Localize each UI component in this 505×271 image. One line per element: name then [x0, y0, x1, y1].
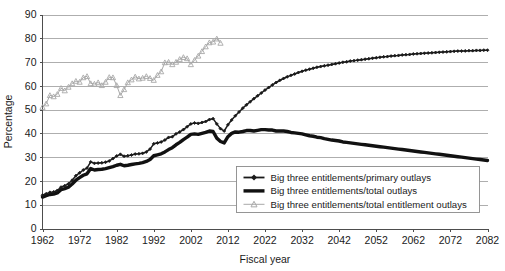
data-point-diamond	[445, 50, 448, 53]
data-point-diamond	[442, 51, 445, 54]
data-point-diamond	[97, 162, 100, 165]
y-tick-label-20: 20	[25, 175, 37, 187]
y-tick-label-70: 70	[25, 56, 37, 68]
x-axis-title: Fiscal year	[240, 253, 291, 265]
legend-label-0: Big three entitlements/primary outlays	[271, 172, 432, 183]
data-point-diamond	[486, 49, 489, 52]
data-point-diamond	[427, 52, 430, 55]
x-tick-label-1992: 1992	[142, 234, 166, 246]
data-point-diamond	[475, 49, 478, 52]
data-point-diamond	[319, 65, 322, 68]
data-point-diamond	[404, 53, 407, 56]
data-point-diamond	[353, 59, 356, 62]
x-tick-label-2052: 2052	[365, 234, 389, 246]
data-point-diamond	[137, 152, 140, 155]
line-chart: 0102030405060708090 19621972198219922002…	[0, 0, 505, 271]
y-tick-label-0: 0	[31, 222, 37, 234]
legend-item-1[interactable]: Big three entitlements/total outlays	[244, 185, 418, 196]
y-tick-label-90: 90	[25, 8, 37, 20]
data-point-diamond	[397, 54, 400, 57]
series-line-total-entitlement-outlays	[43, 39, 221, 107]
x-tick-label-2072: 2072	[439, 234, 463, 246]
data-point-diamond	[382, 55, 385, 58]
legend-label-1: Big three entitlements/total outlays	[271, 185, 418, 196]
data-point-diamond	[330, 63, 333, 66]
data-point-diamond	[419, 52, 422, 55]
y-axis-tick-labels: 0102030405060708090	[25, 8, 37, 234]
data-point-diamond	[471, 49, 474, 52]
data-point-diamond	[156, 141, 159, 144]
data-point-diamond	[134, 153, 137, 156]
legend-item-2[interactable]: Big three entitlements/total entitlement…	[244, 199, 467, 210]
data-point-diamond	[438, 51, 441, 54]
data-point-diamond	[130, 154, 133, 157]
data-point-diamond	[360, 58, 363, 61]
data-point-diamond	[430, 51, 433, 54]
data-point-diamond	[100, 161, 103, 164]
data-point-diamond	[401, 53, 404, 56]
data-point-diamond	[345, 60, 348, 63]
data-point-diamond	[479, 49, 482, 52]
x-tick-label-2002: 2002	[179, 234, 203, 246]
chart-container: 0102030405060708090 19621972198219922002…	[0, 0, 505, 271]
data-point-diamond	[315, 66, 318, 69]
data-point-diamond	[416, 52, 419, 55]
data-point-diamond	[482, 49, 485, 52]
data-point-diamond	[356, 59, 359, 62]
data-point-diamond	[434, 51, 437, 54]
data-point-diamond	[393, 54, 396, 57]
data-point-diamond	[412, 52, 415, 55]
x-tick-label-1982: 1982	[105, 234, 129, 246]
y-tick-label-30: 30	[25, 151, 37, 163]
data-point-diamond	[423, 52, 426, 55]
x-tick-label-2082: 2082	[476, 234, 500, 246]
data-point-diamond	[453, 50, 456, 53]
data-point-diamond	[464, 49, 467, 52]
data-point-diamond	[364, 58, 367, 61]
data-point-diamond	[390, 55, 393, 58]
y-tick-label-80: 80	[25, 32, 37, 44]
data-point-diamond	[371, 57, 374, 60]
data-point-diamond	[312, 67, 315, 70]
legend: Big three entitlements/primary outlaysBi…	[237, 167, 480, 213]
series-total-entitlement-outlays	[40, 36, 223, 109]
y-tick-label-60: 60	[25, 80, 37, 92]
legend-item-0[interactable]: Big three entitlements/primary outlays	[244, 172, 432, 183]
data-point-diamond	[193, 121, 196, 124]
data-point-diamond	[341, 61, 344, 64]
data-point-diamond	[200, 121, 203, 124]
y-axis-title: Percentage	[2, 94, 14, 148]
data-point-diamond	[460, 50, 463, 53]
data-point-diamond	[467, 49, 470, 52]
x-tick-label-2062: 2062	[402, 234, 426, 246]
y-tick-label-10: 10	[25, 198, 37, 210]
data-point-diamond	[327, 64, 330, 67]
data-point-diamond	[449, 50, 452, 53]
x-tick-label-1962: 1962	[31, 234, 55, 246]
x-tick-label-2012: 2012	[216, 234, 240, 246]
y-tick-label-40: 40	[25, 127, 37, 139]
data-point-diamond	[375, 56, 378, 59]
x-axis-tick-labels: 1962197219821992200220122022203220422052…	[31, 234, 500, 246]
data-point-diamond	[378, 56, 381, 59]
data-point-diamond	[367, 57, 370, 60]
data-point-diamond	[338, 62, 341, 65]
data-point-diamond	[126, 154, 129, 157]
data-point-diamond	[456, 50, 459, 53]
x-tick-label-2042: 2042	[327, 234, 351, 246]
data-point-diamond	[408, 53, 411, 56]
x-tick-label-2022: 2022	[253, 234, 277, 246]
x-tick-label-2032: 2032	[290, 234, 314, 246]
y-tick-label-50: 50	[25, 103, 37, 115]
x-tick-label-1972: 1972	[68, 234, 92, 246]
legend-label-2: Big three entitlements/total entitlement…	[271, 199, 467, 210]
data-point-diamond	[386, 55, 389, 58]
data-point-diamond	[308, 68, 311, 71]
data-point-diamond	[323, 64, 326, 67]
data-point-diamond	[197, 122, 200, 125]
